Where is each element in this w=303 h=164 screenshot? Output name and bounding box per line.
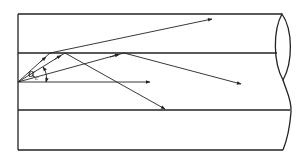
fiber-right-end-ellipse <box>275 14 290 80</box>
refracted-ray-outgoing <box>50 19 212 53</box>
fiber-right-end-curve <box>283 80 291 150</box>
steep-ray-mid-arrow <box>55 56 61 60</box>
angle-subscript: c <box>35 74 39 81</box>
refracted-ray-mid-arrow <box>40 57 46 62</box>
light-rays <box>18 19 241 109</box>
shallow-ray-reflected <box>124 53 241 84</box>
fiber-optic-diagram: α c <box>0 0 303 164</box>
steep-ray-reflected <box>65 53 165 109</box>
shallow-ray-mid-arrow <box>110 55 119 58</box>
diagram-canvas: α c <box>0 0 303 164</box>
